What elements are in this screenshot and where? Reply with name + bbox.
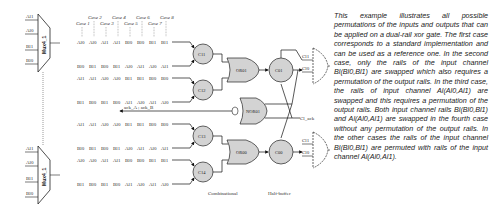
c-element-13: C13 [193,126,213,146]
or-gate-01: OR01 [227,58,259,82]
grid-cell: Al0 [89,158,97,163]
output-mux-top: Cl1 Cl0 [302,48,330,84]
description-text: This example illustrates all possible pe… [334,11,488,162]
mux-bottom-input-3: Bl0 [26,191,34,196]
case-label-7: Case 7 [148,21,162,26]
grid-cell: Bl0 [137,40,145,45]
svg-text:Cl1: Cl1 [302,54,310,59]
grid-cell: Bl1 [77,100,85,105]
case-label-3: Case 3 [100,21,114,26]
grid-cell: Al1 [101,158,109,163]
grid-cell: Bl0 [77,146,85,151]
case-label-5: Case 5 [124,21,138,26]
grid-cell: Al0 [161,182,169,187]
c-element-11: C11 [193,44,213,64]
grid-cell: Bl0 [149,122,157,127]
grid-cell: Al1 [77,122,85,127]
grid-cell: Bl0 [161,76,169,81]
grid-cell: Al0 [125,146,133,151]
grid-cell: Bl1 [77,182,85,187]
grid-cell: Al1 [149,182,157,187]
grid-cell: Bl0 [113,100,121,105]
grid-cell: Bl0 [101,146,109,151]
grid-cell: Bl1 [113,146,121,151]
grid-cell: Al1 [113,158,121,163]
grid-cell: Bl1 [161,40,169,45]
grid-cell: Al0 [101,122,109,127]
svg-text:C12: C12 [198,88,206,93]
grid-cell: Al1 [137,146,145,151]
grid-cell: Bl0 [125,158,133,163]
grid-cell: Al0 [137,182,145,187]
case-label-6: Case 6 [136,15,150,20]
grid-cell: Bl1 [125,76,133,81]
nor-gate-01: NOR01 [232,98,267,124]
svg-text:C00: C00 [275,150,283,155]
grid-cell: Al1 [161,64,169,69]
or-gate-00: OR00 [227,140,259,164]
grid-cell: Bl1 [149,40,157,45]
c-element-14: C14 [193,162,213,182]
grid-cell: Al0 [161,100,169,105]
grid-cell: Bl1 [125,122,133,127]
grid-cell: Bl1 [89,64,97,69]
grid-cell: Al0 [125,64,133,69]
grid-cell: Al1 [125,182,133,187]
grid-cell: Al0 [77,158,85,163]
permutation-label-grid: Al0Al0Al1Al1Bl0Bl0Bl1Bl1Bl0Bl1Bl0Bl1Al0A… [77,40,169,187]
mux-top-input-2: Bl1 [26,44,34,49]
svg-text:NOR01: NOR01 [246,109,260,114]
mux-top-input-3: Bl0 [26,58,34,63]
section-combinational: Combinational [208,191,238,196]
output-mux-bottom: Cl1 Cl0 [302,132,330,168]
svg-text:C01: C01 [275,68,283,73]
grid-cell: Bl1 [89,146,97,151]
grid-cell: Al1 [101,40,109,45]
grid-cell: Bl0 [89,182,97,187]
grid-cell: Bl1 [137,122,145,127]
grid-cell: Bl1 [101,100,109,105]
mux-bottom-input-0: Al1 [26,146,34,151]
grid-cell: Bl1 [161,158,169,163]
mux-bottom-input-1: Al0 [26,160,34,165]
grid-cell: Bl0 [125,40,133,45]
svg-text:C14: C14 [198,170,206,175]
grid-cell: Bl0 [149,76,157,81]
mux-bottom-input-2: Bl1 [26,176,34,181]
grid-cell: Al0 [149,146,157,151]
svg-text:C13: C13 [198,134,206,139]
grid-cell: Al0 [149,64,157,69]
grid-cell: Al0 [101,76,109,81]
grid-cell: Al1 [113,40,121,45]
mux-top-label: Mux4_1 [41,35,47,54]
mux-top: Al1 Al0 Bl1 Bl0 Mux4_1 [25,14,60,72]
grid-cell: Al1 [89,122,97,127]
xor-permutation-diagram: Al1 Al0 Bl1 Bl0 Mux4_1 Al1 Al0 Bl1 Bl0 M… [0,0,330,212]
svg-text:Cl0: Cl0 [302,150,310,155]
svg-text:OR01: OR01 [236,68,247,73]
case-label-4: Case 4 [112,15,126,20]
case-labels: Case 1 Case 2 Case 3 Case 4 Case 5 Case … [76,15,174,37]
grid-cell: Bl1 [149,158,157,163]
grid-cell: Al1 [161,146,169,151]
svg-text:C11: C11 [198,52,205,57]
mux-top-input-1: Al0 [26,28,34,33]
grid-cell: Bl0 [137,158,145,163]
grid-cell: Bl0 [101,64,109,69]
svg-text:Cl0: Cl0 [302,66,310,71]
mux-bottom: Al1 Al0 Bl1 Bl0 Mux4_1 [25,146,60,204]
grid-cell: Bl0 [89,100,97,105]
grid-cell: Al1 [137,64,145,69]
mux-top-input-0: Al1 [26,14,34,19]
case-label-8: Case 8 [160,15,174,20]
grid-cell: Al1 [89,76,97,81]
c-element-01: C01 [269,58,293,82]
svg-text:Cl1: Cl1 [302,138,310,143]
ack-label: ack_A ; ack_B [124,105,154,110]
grid-cell: Al0 [113,122,121,127]
svg-text:OR00: OR00 [236,150,248,155]
grid-cell: Al0 [89,40,97,45]
mux-bottom-label: Mux4_1 [41,167,47,186]
grid-cell: Bl1 [101,182,109,187]
grid-cell: Bl1 [113,64,121,69]
